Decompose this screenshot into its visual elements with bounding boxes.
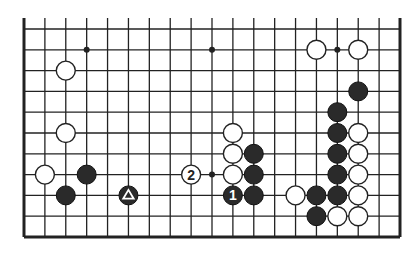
white-stone — [349, 186, 368, 205]
black-stone — [244, 165, 263, 184]
go-board-diagram: 21 — [0, 0, 413, 254]
black-stone — [244, 144, 263, 163]
black-stone — [307, 207, 326, 226]
white-stone — [349, 207, 368, 226]
white-stone — [223, 144, 242, 163]
white-stone — [349, 165, 368, 184]
black-stone — [307, 186, 326, 205]
white-stone: 2 — [182, 165, 201, 184]
star-point-icon — [84, 47, 90, 53]
black-stone — [328, 165, 347, 184]
black-stone — [56, 186, 75, 205]
white-stone — [307, 40, 326, 59]
white-stone — [328, 207, 347, 226]
white-stone — [223, 124, 242, 143]
white-stone — [56, 124, 75, 143]
star-point-icon — [209, 172, 215, 178]
black-stone — [244, 186, 263, 205]
black-stone — [119, 186, 138, 205]
black-stone — [77, 165, 96, 184]
black-stone — [349, 82, 368, 101]
move-number-label: 1 — [229, 187, 237, 203]
star-point-icon — [334, 47, 340, 53]
black-stone — [328, 124, 347, 143]
white-stone — [35, 165, 54, 184]
white-stone — [349, 144, 368, 163]
star-point-icon — [209, 47, 215, 53]
white-stone — [349, 124, 368, 143]
black-stone — [328, 144, 347, 163]
black-stone — [328, 103, 347, 122]
white-stone — [56, 61, 75, 80]
black-stone: 1 — [223, 186, 242, 205]
black-stone — [328, 186, 347, 205]
white-stone — [349, 40, 368, 59]
white-stone — [286, 186, 305, 205]
white-stone — [223, 165, 242, 184]
move-number-label: 2 — [187, 167, 195, 183]
